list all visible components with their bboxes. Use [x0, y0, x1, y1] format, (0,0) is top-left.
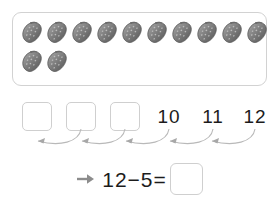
number-line-slot[interactable] — [22, 102, 52, 131]
strawberry-icon — [221, 20, 243, 44]
equation-answer-box[interactable] — [170, 163, 203, 195]
worksheet-page: 10 11 12 — [0, 0, 279, 198]
number-line: 10 11 12 — [0, 98, 279, 154]
number-label-12: 12 — [240, 102, 270, 131]
strawberry-icon — [21, 49, 43, 73]
number-label-11: 11 — [198, 102, 228, 131]
counting-back-arcs — [0, 128, 279, 154]
right-arrow-icon — [76, 172, 96, 186]
number-line-slot[interactable] — [66, 102, 96, 131]
number-line-slot: 10 — [154, 102, 184, 131]
equation-expression: 12−5= — [102, 169, 167, 190]
answer-box-1[interactable] — [22, 102, 52, 131]
number-line-slot[interactable] — [110, 102, 140, 131]
number-line-slot: 11 — [198, 102, 228, 131]
strawberry-icon — [246, 20, 268, 44]
strawberry-icon — [46, 49, 68, 73]
strawberry-icon — [146, 20, 168, 44]
strawberry-icon — [21, 20, 43, 44]
answer-box-2[interactable] — [66, 102, 96, 131]
strawberry-row — [21, 49, 68, 73]
strawberry-panel — [12, 12, 267, 86]
number-label-10: 10 — [154, 102, 184, 131]
number-line-slot: 12 — [240, 102, 270, 131]
strawberry-icon — [121, 20, 143, 44]
strawberry-icon — [46, 20, 68, 44]
strawberry-icon — [196, 20, 218, 44]
strawberry-icon — [171, 20, 193, 44]
answer-box-3[interactable] — [110, 102, 140, 131]
strawberry-row — [21, 20, 268, 44]
strawberry-icon — [96, 20, 118, 44]
equation-row: 12−5= — [0, 160, 279, 198]
strawberry-icon — [71, 20, 93, 44]
